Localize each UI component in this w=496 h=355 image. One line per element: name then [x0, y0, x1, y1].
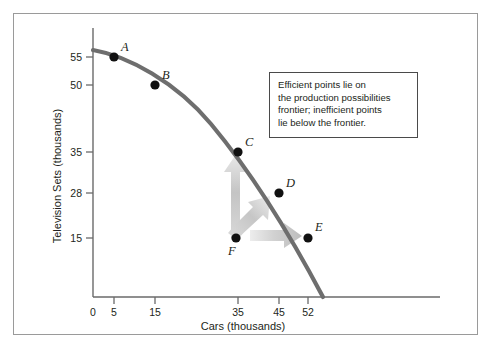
efficiency-note-line-1: Efficient points lie on	[278, 79, 410, 92]
point-label-c: C	[245, 135, 253, 150]
data-point-a	[109, 52, 118, 61]
x-tick-label-15: 15	[145, 306, 165, 318]
x-tick-label-0: 0	[83, 306, 103, 318]
point-label-b: B	[162, 68, 170, 83]
efficiency-note-line-3: frontier; inefficient points	[278, 104, 410, 117]
x-tick-label-52: 52	[298, 306, 318, 318]
efficiency-note-line-2: the production possibilities	[278, 92, 410, 105]
data-point-f	[231, 233, 240, 242]
x-tick-label-45: 45	[269, 306, 289, 318]
x-axis-title: Cars (thousands)	[148, 320, 338, 332]
x-axis-ticks	[114, 297, 308, 304]
point-label-e: E	[315, 220, 323, 235]
y-tick-label-55: 55	[58, 51, 82, 63]
efficiency-note-box: Efficient points lie on the production p…	[269, 72, 418, 138]
data-point-e	[303, 233, 312, 242]
y-axis-title: Television Sets (thousands)	[51, 81, 63, 271]
point-label-a: A	[121, 40, 129, 55]
point-label-f: F	[228, 244, 236, 259]
figure: 55 50 35 28 15 0 5 15 35 45 52 A B C D E…	[0, 0, 496, 355]
point-label-d: D	[286, 176, 295, 191]
y-axis-ticks	[86, 57, 93, 238]
x-tick-label-5: 5	[104, 306, 124, 318]
data-point-b	[150, 80, 159, 89]
efficiency-note-line-4: lie below the frontier.	[278, 117, 410, 130]
data-point-c	[233, 147, 242, 156]
data-point-d	[274, 188, 283, 197]
x-tick-label-35: 35	[228, 306, 248, 318]
